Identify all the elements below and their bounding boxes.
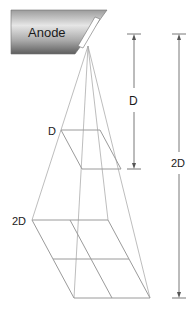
ray-3: [88, 46, 108, 220]
ray-4: [88, 46, 150, 298]
far-plane: [32, 220, 150, 298]
distance-2d-label: 2D: [171, 157, 185, 169]
far-plane-label: 2D: [12, 215, 26, 227]
near-plane: [61, 130, 121, 169]
inverse-square-diagram: Anode D 2D D 2D: [0, 0, 194, 310]
anode-label: Anode: [28, 25, 66, 40]
distance-d-label: D: [129, 94, 138, 108]
anode: Anode: [11, 10, 107, 54]
beam-rays: [32, 46, 150, 298]
near-plane-square: [61, 130, 121, 169]
near-plane-label: D: [48, 125, 56, 137]
